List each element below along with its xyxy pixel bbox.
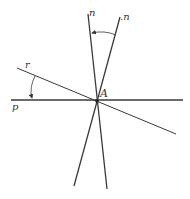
- diagram-canvas: n .n r p A: [0, 0, 190, 199]
- label-n: n: [89, 8, 95, 18]
- label-a: A: [100, 88, 108, 99]
- label-r: r: [25, 60, 30, 70]
- label-p: p: [12, 102, 18, 112]
- diagram-lines: [0, 0, 190, 199]
- point-a: [95, 99, 99, 103]
- angle-arc-n-prime-n: [92, 32, 116, 35]
- label-n-prime: .n: [120, 12, 130, 22]
- angle-arc-r-p: [31, 76, 35, 98]
